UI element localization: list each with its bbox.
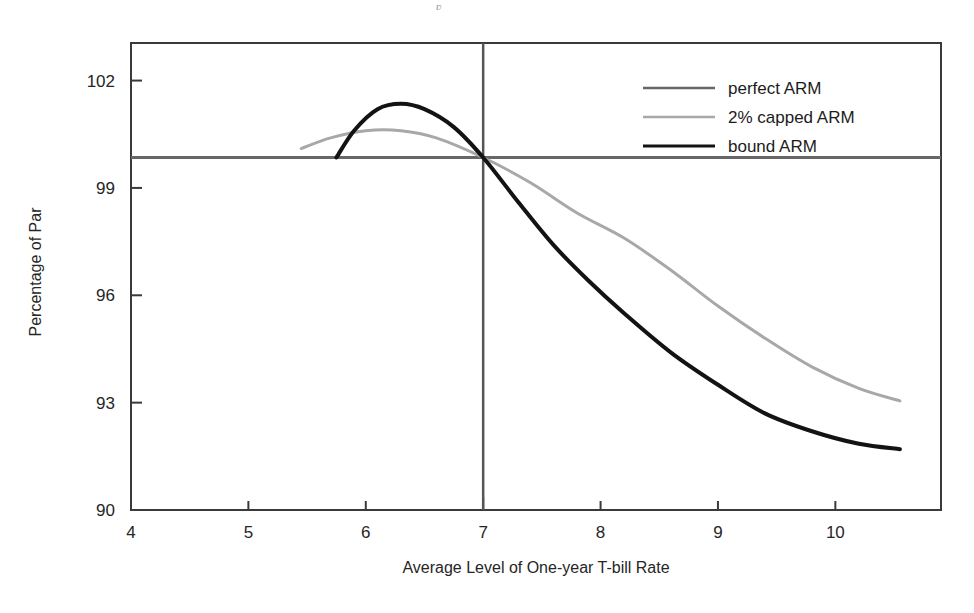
- x-tick-label: 6: [361, 523, 370, 542]
- y-tick-label: 102: [87, 72, 115, 91]
- legend-label: 2% capped ARM: [728, 108, 855, 127]
- x-tick-label: 4: [126, 523, 135, 542]
- chart-background: [0, 0, 974, 613]
- y-tick-label: 99: [96, 179, 115, 198]
- x-axis-title: Average Level of One-year T-bill Rate: [402, 559, 669, 576]
- legend-label: bound ARM: [728, 137, 817, 156]
- legend-label: perfect ARM: [728, 79, 822, 98]
- x-tick-label: 8: [596, 523, 605, 542]
- scan-artifact-mark: ʋ: [436, 2, 443, 11]
- percentage-of-par-line-chart: 45678910 90939699102 Average Level of On…: [0, 0, 974, 613]
- x-tick-label: 10: [826, 523, 845, 542]
- y-axis-title: Percentage of Par: [27, 207, 44, 337]
- y-tick-label: 90: [96, 501, 115, 520]
- x-tick-label: 9: [713, 523, 722, 542]
- x-tick-label: 5: [244, 523, 253, 542]
- x-tick-label: 7: [478, 523, 487, 542]
- chart-figure: ʋ 45678910 90939699102 Average Level of …: [0, 0, 974, 613]
- y-tick-label: 93: [96, 394, 115, 413]
- y-tick-label: 96: [96, 286, 115, 305]
